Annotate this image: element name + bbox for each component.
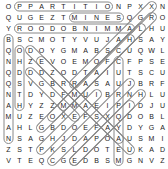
grid-cell[interactable]: B [91, 155, 102, 166]
grid-cell[interactable]: S [146, 56, 157, 67]
grid-cell[interactable]: J [124, 78, 135, 89]
grid-cell[interactable]: O [36, 45, 47, 56]
grid-cell[interactable]: I [80, 12, 91, 23]
grid-cell[interactable]: O [47, 111, 58, 122]
grid-cell[interactable]: G [58, 45, 69, 56]
grid-cell[interactable]: D [47, 89, 58, 100]
grid-cell[interactable]: Z [47, 12, 58, 23]
grid-cell[interactable]: I [91, 23, 102, 34]
grid-cell[interactable]: D [25, 89, 36, 100]
grid-cell[interactable]: X [58, 111, 69, 122]
grid-cell[interactable]: E [91, 100, 102, 111]
grid-cell[interactable]: N [3, 133, 14, 144]
grid-cell[interactable]: Q [135, 45, 146, 56]
grid-cell[interactable]: S [113, 12, 124, 23]
grid-cell[interactable]: N [80, 23, 91, 34]
grid-cell[interactable]: Z [25, 111, 36, 122]
grid-cell[interactable]: T [58, 12, 69, 23]
grid-cell[interactable]: V [146, 155, 157, 166]
grid-cell[interactable]: W [146, 45, 157, 56]
grid-cell[interactable]: M [69, 45, 80, 56]
grid-cell[interactable]: N [135, 155, 146, 166]
grid-cell[interactable]: O [102, 133, 113, 144]
grid-cell[interactable]: Z [47, 67, 58, 78]
grid-cell[interactable]: E [36, 12, 47, 23]
grid-cell[interactable]: Z [47, 100, 58, 111]
grid-cell[interactable]: B [91, 45, 102, 56]
grid-cell[interactable]: I [124, 100, 135, 111]
grid-cell[interactable]: F [157, 78, 168, 89]
grid-cell[interactable]: G [135, 12, 146, 23]
grid-cell[interactable]: F [91, 122, 102, 133]
grid-cell[interactable]: D [47, 23, 58, 34]
grid-cell[interactable]: C [113, 45, 124, 56]
grid-cell[interactable]: I [91, 89, 102, 100]
grid-cell[interactable]: S [102, 45, 113, 56]
grid-cell[interactable]: S [58, 144, 69, 155]
grid-cell[interactable]: T [14, 155, 25, 166]
grid-cell[interactable]: M [102, 23, 113, 34]
grid-cell[interactable]: Q [124, 12, 135, 23]
grid-cell[interactable]: A [113, 34, 124, 45]
grid-cell[interactable]: I [102, 67, 113, 78]
grid-cell[interactable]: T [80, 67, 91, 78]
grid-cell[interactable]: G [25, 12, 36, 23]
grid-cell[interactable]: B [47, 78, 58, 89]
grid-cell[interactable]: Y [69, 34, 80, 45]
grid-cell[interactable]: L [135, 23, 146, 34]
grid-cell[interactable]: S [135, 67, 146, 78]
grid-cell[interactable]: S [91, 78, 102, 89]
grid-cell[interactable]: O [47, 34, 58, 45]
grid-cell[interactable]: C [146, 67, 157, 78]
grid-cell[interactable]: Y [47, 45, 58, 56]
grid-cell[interactable]: D [58, 122, 69, 133]
grid-cell[interactable]: U [91, 34, 102, 45]
grid-cell[interactable]: R [58, 78, 69, 89]
grid-cell[interactable]: A [36, 1, 47, 12]
grid-cell[interactable]: J [102, 34, 113, 45]
grid-cell[interactable]: I [69, 1, 80, 12]
grid-cell[interactable]: U [80, 89, 91, 100]
grid-cell[interactable]: T [58, 34, 69, 45]
grid-cell[interactable]: A [102, 122, 113, 133]
grid-cell[interactable]: M [69, 12, 80, 23]
grid-cell[interactable]: U [113, 78, 124, 89]
grid-cell[interactable]: T [14, 89, 25, 100]
grid-cell[interactable]: U [14, 111, 25, 122]
grid-cell[interactable]: Q [3, 12, 14, 23]
grid-cell[interactable]: Y [25, 100, 36, 111]
grid-cell[interactable]: V [3, 155, 14, 166]
grid-cell[interactable]: A [124, 23, 135, 34]
grid-cell[interactable]: F [102, 56, 113, 67]
grid-cell[interactable]: E [36, 56, 47, 67]
grid-cell[interactable]: M [3, 111, 14, 122]
grid-cell[interactable]: P [113, 100, 124, 111]
grid-cell[interactable]: U [157, 23, 168, 34]
grid-cell[interactable]: R [69, 78, 80, 89]
grid-cell[interactable]: G [146, 122, 157, 133]
grid-cell[interactable]: Z [157, 155, 168, 166]
grid-cell[interactable]: I [102, 100, 113, 111]
grid-cell[interactable]: O [25, 23, 36, 34]
grid-cell[interactable]: A [80, 133, 91, 144]
grid-cell[interactable]: C [25, 34, 36, 45]
grid-cell[interactable]: H [47, 133, 58, 144]
grid-cell[interactable]: D [124, 122, 135, 133]
grid-cell[interactable]: M [69, 100, 80, 111]
grid-cell[interactable]: G [36, 122, 47, 133]
grid-cell[interactable]: G [36, 133, 47, 144]
grid-cell[interactable]: P [135, 56, 146, 67]
grid-cell[interactable]: S [135, 133, 146, 144]
grid-cell[interactable]: O [91, 56, 102, 67]
grid-cell[interactable]: A [3, 122, 14, 133]
grid-cell[interactable]: V [25, 78, 36, 89]
grid-cell[interactable]: D [135, 100, 146, 111]
grid-cell[interactable]: O [69, 122, 80, 133]
grid-cell[interactable]: T [80, 1, 91, 12]
grid-cell[interactable]: N [3, 89, 14, 100]
grid-cell[interactable]: N [124, 89, 135, 100]
grid-cell[interactable]: P [14, 1, 25, 12]
grid-cell[interactable]: P [25, 1, 36, 12]
grid-cell[interactable]: A [80, 78, 91, 89]
grid-cell[interactable]: F [80, 111, 91, 122]
